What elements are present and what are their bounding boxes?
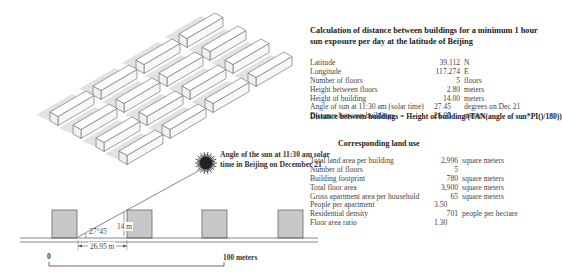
land-use-title: Corresponding land use — [338, 139, 420, 148]
section-building-4 — [278, 210, 303, 238]
land-value: 3.50 — [434, 201, 447, 210]
scale-bar — [49, 262, 224, 266]
section-building-3 — [202, 210, 227, 238]
land-unit: people per hectare — [462, 210, 518, 219]
calc-row: Latitude39.112N — [310, 59, 550, 68]
land-value: 1.30 — [434, 219, 447, 228]
land-label: Floor area ratio — [310, 219, 357, 228]
land-unit: square meters — [462, 193, 504, 202]
section-building-1 — [52, 210, 77, 238]
calculation-title: Calculation of distance between building… — [310, 25, 545, 47]
land-use-table: Total land area per building2,996square … — [310, 157, 550, 228]
height-label: 14 m — [116, 222, 133, 231]
scale-start-label: 0 — [47, 252, 51, 261]
land-row: Floor area ratio1.30 — [310, 219, 550, 228]
angle-label: 27°45 — [89, 227, 107, 236]
angle-arc — [85, 233, 86, 238]
land-unit: square meters — [462, 157, 504, 166]
distance-formula: Distance between buildings = Height of b… — [310, 112, 562, 121]
scale-end-label: 100 meters — [223, 253, 257, 262]
distance-label: 26.95 m — [88, 242, 116, 251]
